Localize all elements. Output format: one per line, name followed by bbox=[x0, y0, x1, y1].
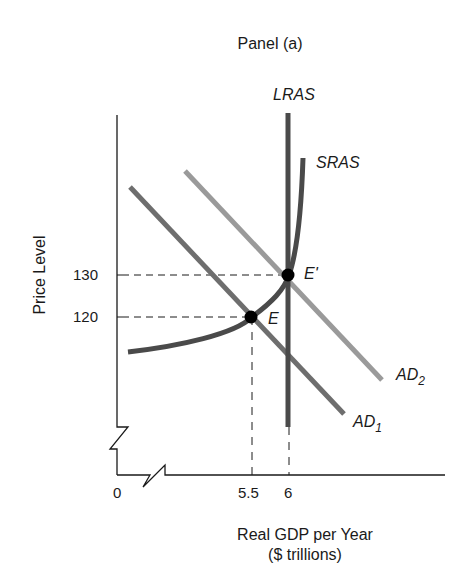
ad2-label-base: AD bbox=[396, 366, 418, 383]
point-e-label: E bbox=[268, 310, 279, 328]
x-tick-label-5-5: 5.5 bbox=[238, 484, 259, 501]
ad1-label-sub: 1 bbox=[375, 421, 382, 435]
y-tick-label-130: 130 bbox=[73, 266, 98, 283]
ad1-label-base: AD bbox=[353, 413, 375, 430]
y-axis bbox=[110, 115, 128, 475]
x-axis bbox=[117, 465, 445, 487]
x-axis-label-line1: Real GDP per Year bbox=[210, 525, 400, 545]
ad1-curve bbox=[130, 187, 344, 414]
x-axis-label-line2: ($ trillions) bbox=[210, 545, 400, 565]
point-e-prime-marker bbox=[282, 269, 295, 282]
point-e-prime-label: E' bbox=[304, 265, 318, 283]
sras-label: SRAS bbox=[316, 154, 360, 172]
y-tick-label-120: 120 bbox=[73, 308, 98, 325]
point-e-marker bbox=[245, 311, 258, 324]
lras-label: LRAS bbox=[273, 86, 315, 104]
x-tick-label-0: 0 bbox=[113, 484, 121, 501]
x-tick-label-6: 6 bbox=[284, 484, 292, 501]
chart-plot bbox=[0, 0, 474, 584]
ad2-label-sub: 2 bbox=[418, 374, 425, 388]
x-axis-label: Real GDP per Year ($ trillions) bbox=[210, 525, 400, 565]
y-axis-label: Price Level bbox=[31, 235, 49, 314]
ad2-label: AD2 bbox=[396, 366, 425, 388]
ad1-label: AD1 bbox=[353, 413, 382, 435]
